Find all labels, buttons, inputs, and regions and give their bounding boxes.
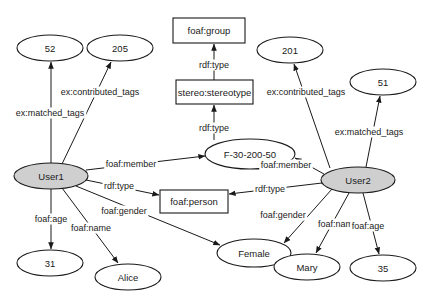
edge-label-ex-matched-tags: ex:matched_tags (333, 127, 405, 138)
edge-label-text: foaf:age (352, 221, 385, 231)
edge-label-text: rdf:type (199, 123, 229, 133)
edge-label-foaf-member: foaf:member (259, 160, 313, 171)
edge-label-text: rdf:type (104, 181, 134, 191)
node-31: 31 (17, 250, 83, 276)
edge-label-foaf-gender: foaf:gender (259, 210, 308, 221)
edge-label-text: foaf:member (106, 159, 157, 169)
node-alice: Alice (95, 264, 161, 290)
node-52: 52 (17, 35, 83, 61)
edge-label-ex-contributed-tags: ex:contributed_tags (265, 87, 347, 98)
edge-label-ex-contributed-tags: ex:contributed_tags (59, 87, 141, 98)
edge-label-text: foaf:age (35, 214, 68, 224)
node-foaf-group: foaf:group (173, 18, 245, 43)
edge-label-foaf-gender: foaf:gender (100, 206, 149, 217)
node-51: 51 (350, 69, 416, 95)
node-35: 35 (350, 255, 416, 281)
edge-label-ex-matched-tags: ex:matched_tags (14, 108, 86, 119)
node-label: 201 (282, 45, 298, 56)
node-label: User1 (38, 171, 63, 182)
edge-label-rdf-type: rdf:type (197, 123, 230, 134)
edge-label-text: foaf:gender (101, 206, 147, 216)
node-label: foaf:group (188, 25, 231, 36)
node-label: 51 (378, 77, 389, 88)
edge-label-rdf-type: rdf:type (102, 181, 135, 192)
edge-label-foaf-member: foaf:member (104, 159, 158, 170)
edge-label-foaf-age: foaf:age (350, 221, 386, 232)
node-label: Alice (118, 272, 139, 283)
node-label: Female (238, 248, 270, 259)
node-mary: Mary (274, 254, 340, 280)
edge-label-text: ex:matched_tags (16, 108, 85, 118)
node-label: F-30-200-50 (224, 149, 276, 160)
rdf-graph-diagram: 52205foaf:groupstereo:stereotype20151F-3… (0, 0, 431, 305)
edge-label-text: rdf:type (199, 60, 229, 70)
node-label: Mary (296, 262, 317, 273)
node-stereo-stereotype: stereo:stereotype (176, 80, 253, 104)
node-label: stereo:stereotype (178, 87, 251, 98)
edge-label-foaf-age: foaf:age (33, 214, 69, 225)
node-foaf-person: foaf:person (160, 190, 228, 213)
nodes-layer: 52205foaf:groupstereo:stereotype20151F-3… (14, 18, 416, 290)
edge-ex-contributed-tags-line (294, 64, 330, 168)
node-label: 31 (45, 258, 56, 269)
edge-label-text: rdf:type (255, 184, 285, 194)
node-201: 201 (257, 37, 323, 63)
node-label: 52 (45, 43, 56, 54)
edge-label-text: ex:matched_tags (335, 127, 404, 137)
edge-label-text: ex:contributed_tags (267, 87, 346, 97)
node-label: foaf:person (170, 196, 218, 207)
edge-label-text: foaf:member (261, 160, 312, 170)
node-user2: User2 (321, 167, 395, 193)
node-205: 205 (87, 35, 153, 61)
node-label: 205 (112, 43, 128, 54)
node-label: User2 (345, 175, 370, 186)
edge-label-rdf-type: rdf:type (253, 184, 286, 195)
edge-label-text: ex:contributed_tags (61, 87, 140, 97)
edge-label-text: foaf:gender (260, 210, 306, 220)
edge-label-rdf-type: rdf:type (197, 60, 230, 71)
edge-label-foaf-name: foaf:name (69, 223, 112, 234)
node-label: 35 (378, 263, 389, 274)
node-user1: User1 (14, 163, 88, 189)
edge-label-text: foaf:name (71, 223, 111, 233)
